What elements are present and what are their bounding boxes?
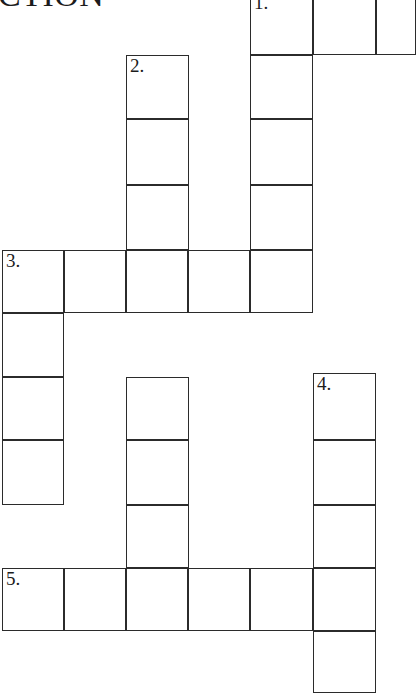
cell-2-down-r2[interactable] — [126, 119, 189, 185]
cell-2-down-r3[interactable] — [126, 185, 189, 250]
cell-3-across-2[interactable] — [64, 250, 126, 313]
cell-number: 2. — [130, 56, 144, 76]
cell-1-down-r4[interactable] — [250, 185, 313, 250]
cell-2-down-r6[interactable] — [126, 440, 189, 505]
cell-3-across-5[interactable] — [250, 250, 313, 313]
cell-5-across-2[interactable] — [64, 568, 126, 631]
cell-2-down-start[interactable]: 2. — [126, 55, 189, 119]
cell-5-across-5[interactable] — [250, 568, 313, 631]
cell-4-down-r3[interactable] — [313, 505, 376, 568]
cell-number: 3. — [6, 251, 20, 271]
cell-number: 1. — [254, 0, 268, 13]
cell-1-down-r2[interactable] — [250, 55, 313, 119]
cell-3-across-3[interactable] — [126, 250, 188, 313]
cell-number: 5. — [6, 569, 20, 589]
clipped-heading: CTION — [0, 0, 104, 12]
cell-3-down-r3[interactable] — [2, 377, 64, 440]
cell-4-down-r5[interactable] — [313, 631, 376, 693]
cell-3-across-4[interactable] — [188, 250, 250, 313]
cell-1-across-3[interactable] — [376, 0, 416, 55]
cell-1-across-start[interactable]: 1. — [250, 0, 313, 55]
cell-number: 4. — [317, 374, 331, 394]
cell-3-across-start[interactable]: 3. — [2, 250, 64, 313]
cell-5-across-6[interactable] — [313, 568, 376, 631]
cell-5-across-start[interactable]: 5. — [2, 568, 64, 631]
cell-3-down-r2[interactable] — [2, 313, 64, 377]
cell-3-down-r4[interactable] — [2, 440, 64, 505]
cell-4-down-r2[interactable] — [313, 440, 376, 505]
cell-5-across-4[interactable] — [188, 568, 250, 631]
cell-1-down-r3[interactable] — [250, 119, 313, 185]
cell-2-down-r7[interactable] — [126, 505, 189, 568]
cell-5-across-3[interactable] — [126, 568, 188, 631]
cell-4-down-start[interactable]: 4. — [313, 373, 376, 440]
cell-2-down-r5[interactable] — [126, 377, 189, 440]
cell-1-across-2[interactable] — [313, 0, 376, 55]
